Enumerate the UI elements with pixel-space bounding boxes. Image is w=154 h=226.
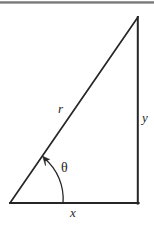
right-triangle-graphic xyxy=(0,0,154,226)
angle-label-theta: θ xyxy=(61,161,68,175)
hypotenuse-line xyxy=(10,17,138,203)
figure-canvas: r y x θ xyxy=(0,0,154,226)
horizontal-leg-label: x xyxy=(70,206,76,219)
angle-arc-arrowhead-icon xyxy=(43,156,50,165)
vertical-leg-label: y xyxy=(142,111,148,124)
hypotenuse-label: r xyxy=(58,102,63,115)
